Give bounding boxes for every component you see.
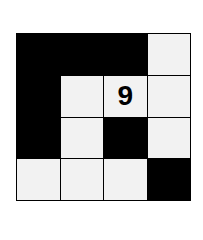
black-cell: [148, 159, 191, 200]
white-cell[interactable]: [17, 159, 60, 200]
puzzle-grid: 9: [16, 33, 191, 201]
black-cell: [104, 34, 147, 75]
white-cell[interactable]: [148, 118, 191, 159]
white-cell[interactable]: [104, 159, 147, 200]
black-cell: [17, 118, 60, 159]
white-cell[interactable]: [148, 34, 191, 75]
white-cell[interactable]: [61, 118, 104, 159]
white-cell[interactable]: [61, 76, 104, 117]
white-cell[interactable]: [148, 76, 191, 117]
black-cell: [17, 34, 60, 75]
black-cell: [61, 34, 104, 75]
black-cell: [17, 76, 60, 117]
white-cell[interactable]: [61, 159, 104, 200]
white-cell[interactable]: 9: [104, 76, 147, 117]
black-cell: [104, 118, 147, 159]
